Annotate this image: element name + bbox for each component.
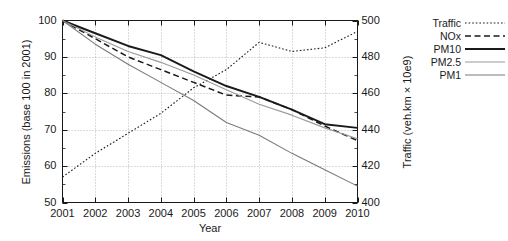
y-left-tick-label: 100 (23, 14, 57, 26)
data-series-lines (63, 21, 358, 187)
y-left-tick-label: 70 (23, 123, 57, 135)
y-left-tick-label: 80 (23, 86, 57, 98)
legend-item-pm1[interactable]: PM1 (393, 69, 505, 81)
y-left-tick-label: 90 (23, 50, 57, 62)
legend-item-traffic[interactable]: Traffic (393, 17, 505, 29)
y-right-tick-label: 420 (362, 159, 396, 171)
y-left-tick-label: 60 (23, 159, 57, 171)
legend-line-sample (465, 70, 505, 80)
legend-item-pm10[interactable]: PM10 (393, 43, 505, 55)
legend-item-label: PM2.5 (431, 56, 461, 68)
legend-item-label: PM10 (434, 43, 461, 55)
legend-item-label: Traffic (432, 17, 461, 29)
x-axis-title: Year (62, 222, 358, 234)
legend-line-sample (465, 44, 505, 54)
legend-line-sample (465, 18, 505, 28)
series-line-traffic (63, 31, 358, 177)
y-right-tick-label: 500 (362, 14, 396, 26)
legend-item-pm2-5[interactable]: PM2.5 (393, 56, 505, 68)
legend-item-label: NOx (440, 30, 461, 42)
y-right-tick-label: 460 (362, 86, 396, 98)
legend-line-sample (465, 57, 505, 67)
x-tick-label: 2010 (338, 207, 378, 219)
emissions-traffic-chart: Emissions (base 100 in 2001) Traffic (ve… (0, 0, 508, 241)
legend-item-nox[interactable]: NOx (393, 30, 505, 42)
y-right-tick-label: 480 (362, 50, 396, 62)
chart-legend: TrafficNOxPM10PM2.5PM1 (393, 17, 505, 82)
legend-item-label: PM1 (439, 69, 461, 81)
legend-line-sample (465, 31, 505, 41)
y-right-tick-label: 440 (362, 123, 396, 135)
